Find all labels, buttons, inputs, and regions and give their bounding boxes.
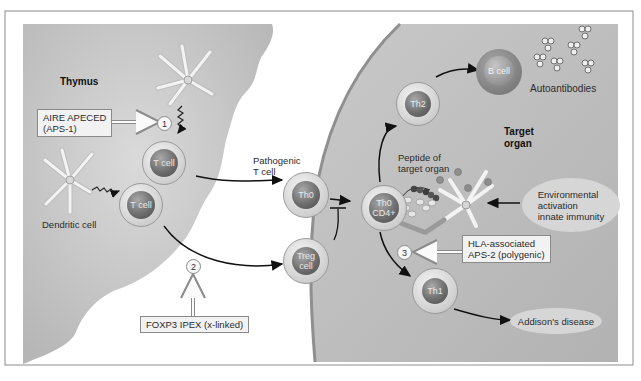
b-cell: B cell [476, 49, 522, 95]
hla-associated-box: HLA-associated APS-2 (polygenic) [462, 235, 551, 263]
treg-line1: Treg [297, 251, 315, 261]
peptide-label: Peptide of target organ [398, 152, 449, 174]
env-line2: activation [538, 200, 605, 211]
foxp3-ipex-box: FOXP3 IPEX (x-linked) [140, 316, 249, 333]
thymus-t-cell-upper: T cell [142, 141, 186, 185]
th0-cell: Th0 [283, 172, 329, 218]
treg-line2: cell [299, 261, 313, 271]
pathogenic-t-cell-label: Pathogenic T cell [253, 155, 301, 177]
addisons-disease-ellipse: Addison's disease [510, 308, 602, 334]
addisons-label: Addison's disease [518, 316, 594, 327]
thymus-label: Thymus [60, 76, 98, 88]
th2-cell: Th2 [396, 82, 440, 126]
treg-label: Tregcell [292, 247, 320, 275]
diagram-canvas: Thymus Target organ AIRE APECED (APS-1) … [0, 0, 641, 381]
target-organ-line2: organ [504, 138, 534, 150]
peptide-line2: target organ [398, 163, 449, 174]
pathogenic-line1: Pathogenic [253, 155, 301, 166]
th0-cd4-label: Th0CD4+ [369, 193, 399, 223]
thymus-t-cell-lower: T cell [119, 183, 163, 227]
treg-cell: Tregcell [283, 238, 329, 284]
dendritic-cell-label: Dendritic cell [42, 219, 96, 230]
hla-line2: APS-2 (polygenic) [468, 249, 545, 260]
aire-line1: AIRE APECED [43, 112, 106, 123]
autoantibodies-label: Autoantibodies [530, 83, 596, 94]
th0-cd4-line2: CD4+ [372, 208, 395, 218]
env-line1: Environmental [538, 189, 605, 200]
env-line3: innate immunity [538, 211, 605, 222]
aire-line2: (APS-1) [43, 123, 106, 134]
th0-cd4-line1: Th0 [376, 198, 392, 208]
marker-2: 2 [186, 259, 201, 274]
th0-label: Th0 [292, 181, 320, 209]
hla-line1: HLA-associated [468, 238, 545, 249]
thymus-t-cell-upper-label: T cell [150, 149, 178, 177]
th1-cell: Th1 [412, 268, 458, 314]
th1-label: Th1 [422, 278, 448, 304]
b-cell-label: B cell [484, 56, 514, 86]
peptide-line1: Peptide of [398, 152, 449, 163]
target-organ-line1: Target [504, 126, 534, 138]
marker-3: 3 [397, 245, 412, 260]
thymus-t-cell-lower-label: T cell [127, 191, 155, 219]
th0-cd4-cell: Th0CD4+ [361, 185, 407, 231]
marker-1: 1 [157, 116, 172, 131]
th2-label: Th2 [405, 91, 431, 117]
aire-apeced-box: AIRE APECED (APS-1) [37, 109, 112, 137]
target-organ-label: Target organ [504, 126, 534, 150]
environmental-activation-ellipse: Environmental activation innate immunity [522, 178, 620, 232]
